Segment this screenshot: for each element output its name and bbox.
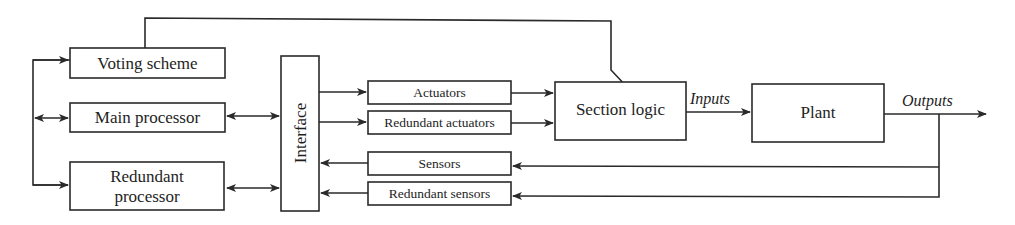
sensors-block: Sensors bbox=[368, 152, 511, 175]
interface-block: Interface bbox=[281, 56, 319, 211]
outputs-label: Outputs bbox=[902, 92, 953, 110]
redundant-sensors-block: Redundant sensors bbox=[368, 182, 511, 205]
inputs-label: Inputs bbox=[689, 90, 730, 108]
actuators-block: Actuators bbox=[368, 81, 511, 104]
voting-scheme-block: Voting scheme bbox=[70, 48, 225, 78]
redundant-actuators-block: Redundant actuators bbox=[368, 111, 511, 134]
left-bus-line bbox=[33, 60, 70, 185]
voting-scheme-label: Voting scheme bbox=[97, 54, 197, 73]
main-processor-label: Main processor bbox=[95, 108, 201, 127]
sensors-label: Sensors bbox=[418, 156, 460, 171]
section-logic-label: Section logic bbox=[576, 100, 666, 119]
main-processor-block: Main processor bbox=[70, 103, 225, 132]
redundant-control-system-diagram: Voting scheme Main processor Redundant p… bbox=[0, 0, 1015, 225]
actuators-label: Actuators bbox=[413, 85, 465, 100]
section-logic-block: Section logic bbox=[555, 82, 686, 140]
plant-label: Plant bbox=[801, 103, 836, 122]
redundant-actuators-label: Redundant actuators bbox=[384, 115, 495, 130]
feedback-to-sensors bbox=[513, 166, 939, 167]
redundant-processor-label-line1: Redundant bbox=[110, 167, 184, 186]
redundant-sensors-label: Redundant sensors bbox=[389, 186, 491, 201]
left-bus bbox=[33, 60, 70, 185]
plant-block: Plant bbox=[752, 84, 884, 142]
redundant-processor-label-line2: processor bbox=[114, 187, 179, 206]
redundant-processor-block: Redundant processor bbox=[70, 162, 224, 210]
interface-label: Interface bbox=[291, 103, 310, 163]
